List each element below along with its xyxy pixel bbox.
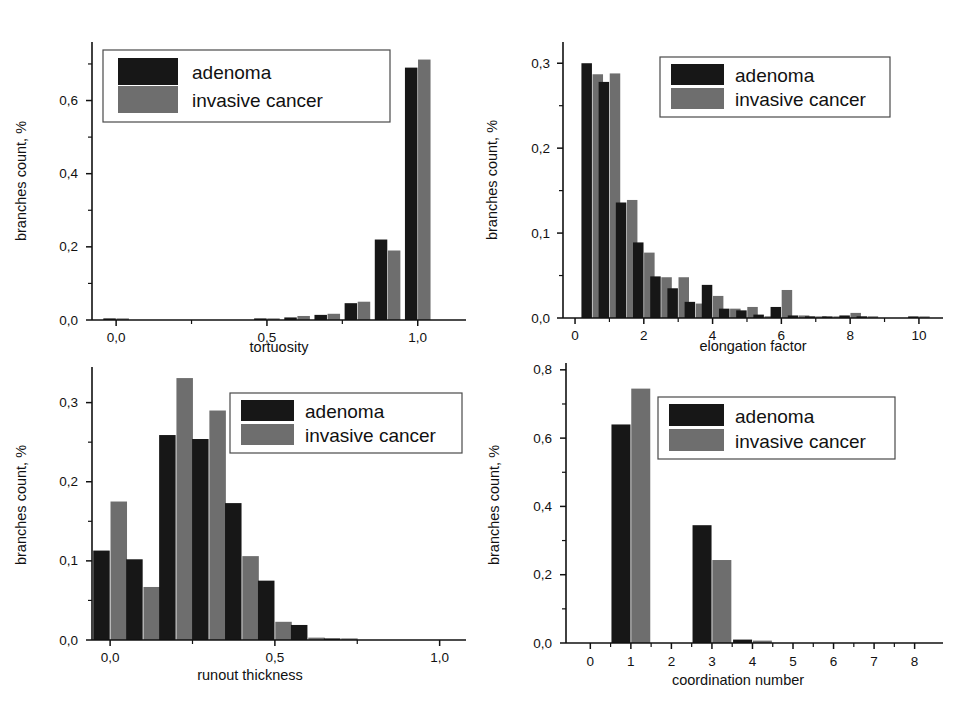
legend-label-invasive-cancer: invasive cancer — [735, 89, 867, 110]
x-tick-label: 0,5 — [265, 650, 284, 665]
elongation-svg: 02468100,00,10,20,3 elongation factor br… — [473, 0, 953, 360]
x-tick-label: 3 — [708, 654, 716, 669]
legend-swatch-adenoma — [671, 64, 724, 85]
legend-label-adenoma: adenoma — [305, 401, 385, 422]
x-tick-label: 0 — [571, 328, 579, 343]
chart-runout-thickness: 0,00,51,00,00,10,20,3 runout thickness b… — [0, 355, 480, 719]
x-tick-label: 6 — [830, 654, 838, 669]
bar-adenoma — [736, 310, 747, 318]
bar-adenoma — [345, 303, 358, 320]
tortuosity-tick-labels: 0,00,51,00,00,20,40,6 — [59, 93, 427, 345]
bar-adenoma — [719, 309, 730, 318]
x-tick-label: 8 — [846, 328, 854, 343]
legend-label-adenoma: adenoma — [735, 406, 815, 427]
runout-svg: 0,00,51,00,00,10,20,3 runout thickness b… — [0, 355, 480, 719]
y-tick-label: 0,2 — [533, 567, 552, 582]
legend-label-invasive-cancer: invasive cancer — [192, 90, 324, 111]
y-tick-label: 0,1 — [531, 226, 550, 241]
y-tick-label: 0,2 — [59, 239, 78, 254]
bar-invasive-cancer — [242, 556, 259, 640]
bar-adenoma — [616, 203, 627, 319]
legend-label-adenoma: adenoma — [735, 65, 815, 86]
bar-adenoma — [159, 435, 176, 640]
x-tick-label: 1,0 — [430, 650, 449, 665]
legend-swatch-adenoma — [118, 58, 178, 85]
legend-swatch-invasive-cancer — [671, 88, 724, 109]
bar-invasive-cancer — [358, 302, 371, 320]
bar-invasive-cancer — [388, 251, 401, 321]
bar-adenoma — [581, 63, 592, 318]
x-tick-label: 2 — [668, 654, 676, 669]
y-tick-label: 0,4 — [533, 499, 552, 514]
bar-invasive-cancer — [209, 411, 226, 640]
bar-adenoma — [126, 559, 143, 640]
legend-swatch-invasive-cancer — [669, 429, 724, 451]
bar-invasive-cancer — [418, 60, 431, 320]
bar-invasive-cancer — [111, 502, 128, 640]
x-tick-label: 0 — [587, 654, 595, 669]
y-tick-label: 0,0 — [533, 636, 552, 651]
legend: adenoma invasive cancer — [658, 397, 895, 459]
bar-adenoma — [291, 625, 308, 640]
y-tick-label: 0,3 — [531, 56, 550, 71]
legend: adenoma invasive cancer — [230, 393, 462, 453]
x-tick-label: 8 — [911, 654, 919, 669]
bar-invasive-cancer — [275, 622, 292, 640]
bar-adenoma — [192, 439, 209, 640]
x-axis-title: tortuosity — [250, 339, 310, 355]
bar-adenoma — [375, 240, 388, 320]
bar-adenoma — [93, 551, 110, 640]
y-tick-label: 0,4 — [59, 166, 78, 181]
y-tick-label: 0,1 — [59, 553, 78, 568]
tortuosity-svg: 0,00,51,00,00,20,40,6 tortuosity branche… — [0, 0, 480, 360]
bar-adenoma — [405, 68, 418, 320]
chart-tortuosity: 0,00,51,00,00,20,40,6 tortuosity branche… — [0, 0, 480, 360]
x-tick-label: 0,0 — [101, 650, 120, 665]
y-tick-label: 0,0 — [531, 311, 550, 326]
legend-label-invasive-cancer: invasive cancer — [735, 431, 867, 452]
coordination-svg: 0123456780,00,20,40,60,8 coordination nu… — [473, 355, 953, 719]
x-tick-label: 2 — [640, 328, 648, 343]
legend: adenoma invasive cancer — [660, 57, 890, 117]
bar-adenoma — [693, 525, 712, 643]
bar-adenoma — [685, 302, 696, 318]
bar-adenoma — [599, 82, 610, 318]
legend-swatch-adenoma — [241, 400, 294, 421]
legend: adenoma invasive cancer — [103, 50, 390, 122]
bar-invasive-cancer — [176, 378, 193, 640]
bar-invasive-cancer — [631, 389, 650, 643]
x-tick-label: 1,0 — [408, 330, 427, 345]
bar-invasive-cancer — [712, 560, 731, 643]
legend-label-invasive-cancer: invasive cancer — [305, 425, 437, 446]
y-axis-title: branches count, % — [484, 120, 500, 240]
y-axis-title: branches count, % — [13, 121, 29, 241]
bar-adenoma — [771, 307, 782, 318]
legend-swatch-invasive-cancer — [241, 424, 294, 445]
bar-invasive-cancer — [143, 587, 160, 640]
x-tick-label: 0,0 — [107, 330, 126, 345]
bar-adenoma — [633, 242, 644, 318]
bar-adenoma — [650, 276, 661, 318]
bar-adenoma — [667, 288, 678, 318]
y-axis-title: branches count, % — [486, 445, 502, 565]
y-axis-title: branches count, % — [13, 445, 29, 565]
bar-invasive-cancer — [782, 290, 793, 318]
y-tick-label: 0,6 — [533, 431, 552, 446]
bar-adenoma — [611, 424, 630, 643]
y-tick-label: 0,2 — [531, 141, 550, 156]
y-tick-label: 0,3 — [59, 395, 78, 410]
x-tick-label: 10 — [911, 328, 926, 343]
legend-swatch-invasive-cancer — [118, 86, 178, 113]
bar-invasive-cancer — [328, 314, 341, 320]
x-tick-label: 4 — [749, 654, 757, 669]
y-tick-label: 0,0 — [59, 313, 78, 328]
x-tick-label: 5 — [789, 654, 797, 669]
chart-coordination-number: 0123456780,00,20,40,60,8 coordination nu… — [473, 355, 953, 719]
figure-panel-grid: 0,00,51,00,00,20,40,6 tortuosity branche… — [0, 0, 953, 719]
x-axis-title: elongation factor — [699, 338, 806, 354]
bar-adenoma — [258, 581, 275, 640]
y-tick-label: 0,2 — [59, 474, 78, 489]
x-tick-label: 7 — [870, 654, 878, 669]
y-tick-label: 0,6 — [59, 93, 78, 108]
y-tick-label: 0,8 — [533, 362, 552, 377]
